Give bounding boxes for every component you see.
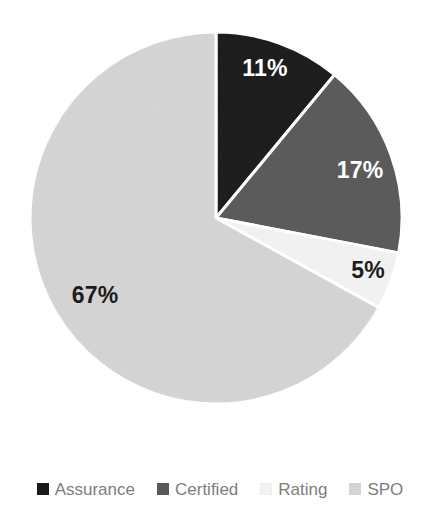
pie-chart-svg: 11%17%5%67% xyxy=(0,0,440,440)
legend-swatch-assurance xyxy=(37,483,49,495)
legend-swatch-spo xyxy=(349,483,361,495)
pie-chart-plot-area: 11%17%5%67% xyxy=(0,0,440,440)
legend-label-certified: Certified xyxy=(175,481,238,498)
legend-label-spo: SPO xyxy=(367,481,403,498)
pie-label-spo: 67% xyxy=(72,282,119,308)
pie-label-assurance: 11% xyxy=(242,55,287,81)
paper-grain-overlay xyxy=(30,32,402,404)
legend-label-assurance: Assurance xyxy=(55,481,135,498)
pie-label-certified: 17% xyxy=(337,157,384,183)
legend-item-certified[interactable]: Certified xyxy=(157,481,238,498)
legend-item-assurance[interactable]: Assurance xyxy=(37,481,135,498)
legend-label-rating: Rating xyxy=(278,481,327,498)
legend-swatch-certified xyxy=(157,483,169,495)
legend-item-spo[interactable]: SPO xyxy=(349,481,403,498)
chart-legend: Assurance Certified Rating SPO xyxy=(0,472,440,506)
pie-label-rating: 5% xyxy=(351,257,385,283)
pie-grain xyxy=(30,32,402,404)
legend-swatch-rating xyxy=(260,483,272,495)
legend-item-rating[interactable]: Rating xyxy=(260,481,327,498)
pie-chart-figure: 11%17%5%67% Assurance Certified Rating S… xyxy=(0,0,440,530)
